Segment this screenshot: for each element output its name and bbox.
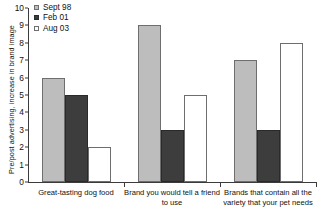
y-tick-mark	[25, 147, 28, 148]
category-label: Brand you would tell a friend to use	[124, 188, 220, 207]
x-axis-line	[28, 182, 316, 183]
plot-area	[28, 8, 316, 182]
y-tick-mark	[25, 60, 28, 61]
bar	[65, 95, 88, 182]
bar-chart: Pre/post advertising, increase in brand …	[0, 0, 322, 219]
category-separator-tick	[220, 182, 221, 187]
legend-item: Sept 98	[34, 3, 71, 13]
y-tick-mark	[25, 77, 28, 78]
category-label: Great-tasting dog food	[28, 188, 124, 198]
category-separator-tick	[316, 182, 317, 187]
y-tick-mark	[25, 95, 28, 96]
bar	[42, 78, 65, 182]
legend-swatch-icon	[34, 26, 39, 31]
y-tick-mark	[25, 8, 28, 9]
y-tick-mark	[25, 42, 28, 43]
bar	[138, 25, 161, 182]
legend-swatch-icon	[34, 15, 39, 20]
legend-swatch-icon	[34, 5, 39, 10]
bar	[280, 43, 303, 182]
y-tick-mark	[25, 164, 28, 165]
category-label: Brands that contain all the variety that…	[220, 188, 316, 207]
legend-label: Sept 98	[43, 3, 71, 12]
bar	[184, 95, 207, 182]
legend-label: Aug 03	[43, 24, 69, 33]
legend-label: Feb 01	[43, 13, 69, 22]
legend: Sept 98Feb 01Aug 03	[34, 3, 71, 34]
bar	[88, 147, 111, 182]
bar	[161, 130, 184, 182]
y-tick-mark	[25, 182, 28, 183]
y-tick-mark	[25, 112, 28, 113]
y-tick-mark	[25, 129, 28, 130]
category-separator-tick	[124, 182, 125, 187]
y-axis-title: Pre/post advertising, increase in brand …	[7, 9, 16, 191]
bar	[234, 60, 257, 182]
bar	[257, 130, 280, 182]
legend-item: Aug 03	[34, 23, 71, 33]
y-tick-mark	[25, 25, 28, 26]
legend-item: Feb 01	[34, 13, 71, 23]
